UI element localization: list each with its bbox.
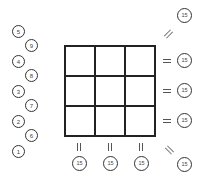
- number-tile-5[interactable]: 5: [12, 25, 25, 38]
- number-tile-7[interactable]: 7: [25, 99, 38, 112]
- anti-diagonal-equals-icon: [164, 29, 173, 38]
- number-tile-3[interactable]: 3: [12, 85, 25, 98]
- number-tile-4[interactable]: 4: [12, 55, 25, 68]
- magic-square-grid: [64, 45, 156, 137]
- main-diagonal-sum: 15: [177, 157, 192, 172]
- grid-cell-r2c1[interactable]: [65, 76, 95, 106]
- column-2-equals-icon: [108, 143, 112, 151]
- grid-cell-r3c3[interactable]: [125, 106, 155, 136]
- row-1-equals-icon: [163, 59, 171, 63]
- row-2-sum: 15: [177, 83, 192, 98]
- column-3-equals-icon: [139, 143, 143, 151]
- number-tile-2[interactable]: 2: [12, 115, 25, 128]
- column-2-sum: 15: [103, 156, 118, 171]
- anti-diagonal-sum: 15: [177, 8, 192, 23]
- number-tile-1[interactable]: 1: [12, 145, 25, 158]
- column-3-sum: 15: [134, 156, 149, 171]
- row-2-equals-icon: [163, 89, 171, 93]
- grid-cell-r1c3[interactable]: [125, 46, 155, 76]
- grid-cell-r3c2[interactable]: [95, 106, 125, 136]
- number-tile-8[interactable]: 8: [25, 69, 38, 82]
- grid-cell-r1c1[interactable]: [65, 46, 95, 76]
- column-1-sum: 15: [72, 156, 87, 171]
- grid-cell-r2c2[interactable]: [95, 76, 125, 106]
- row-1-sum: 15: [177, 53, 192, 68]
- column-1-equals-icon: [77, 143, 81, 151]
- row-3-equals-icon: [163, 119, 171, 123]
- row-3-sum: 15: [177, 113, 192, 128]
- grid-cell-r2c3[interactable]: [125, 76, 155, 106]
- grid-cell-r1c2[interactable]: [95, 46, 125, 76]
- number-tile-9[interactable]: 9: [25, 39, 38, 52]
- main-diagonal-equals-icon: [165, 145, 174, 154]
- number-tile-6[interactable]: 6: [25, 129, 38, 142]
- grid-cell-r3c1[interactable]: [65, 106, 95, 136]
